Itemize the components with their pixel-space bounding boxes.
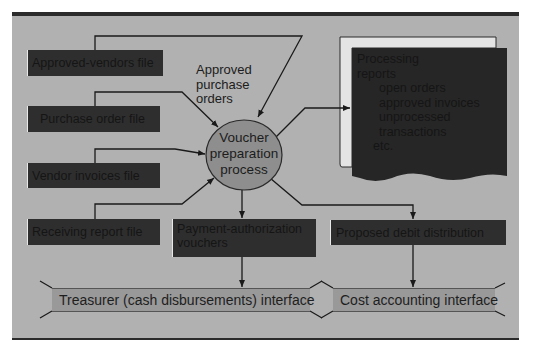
- processing-reports: Processing reports open orders approved …: [357, 52, 507, 154]
- debit-label: Proposed debit distribution: [336, 226, 484, 240]
- process-line-2: preparation: [206, 146, 282, 162]
- cost-label: Cost accounting interface: [340, 292, 498, 308]
- file-vendor-invoices: Vendor invoices file: [27, 163, 160, 188]
- cost-left-cap: [321, 281, 333, 318]
- file-label: Receiving report file: [32, 225, 142, 239]
- voucher-preparation-diagram: Approved-vendors file Purchase order fil…: [0, 0, 536, 353]
- process-line-3: process: [206, 162, 282, 178]
- process-line-1: Voucher: [206, 130, 282, 146]
- connector-vendor-invoices: [95, 149, 205, 163]
- file-label: Approved-vendors file: [32, 56, 154, 70]
- file-receiving-report: Receiving report file: [27, 219, 160, 245]
- connector-to-debit: [270, 178, 413, 219]
- connector-to-reports: [273, 108, 350, 140]
- treasurer-left-cap: [40, 281, 52, 318]
- approved-purchase-orders-label: Approved purchase orders: [196, 63, 272, 107]
- report-item: unprocessed transactions: [357, 110, 469, 139]
- file-label: Purchase order file: [40, 112, 145, 126]
- file-approved-vendors: Approved-vendors file: [27, 50, 163, 76]
- process-label: Voucher preparation process: [206, 130, 282, 178]
- file-label: Vendor invoices file: [32, 169, 140, 183]
- report-item: open orders: [357, 81, 507, 96]
- report-item: approved invoices: [357, 96, 507, 111]
- report-etc: etc.: [357, 139, 507, 154]
- report-title: Processing reports: [357, 52, 437, 81]
- payment-authorization-vouchers: Payment-authorization vouchers: [172, 219, 316, 257]
- treasurer-label: Treasurer (cash disbursements) interface: [59, 292, 314, 308]
- vouchers-label: Payment-authorization vouchers: [177, 222, 312, 250]
- file-purchase-order: Purchase order file: [27, 106, 160, 132]
- cost-accounting-interface: Cost accounting interface: [333, 288, 495, 312]
- proposed-debit-distribution: Proposed debit distribution: [330, 220, 506, 245]
- treasurer-interface: Treasurer (cash disbursements) interface: [52, 288, 310, 312]
